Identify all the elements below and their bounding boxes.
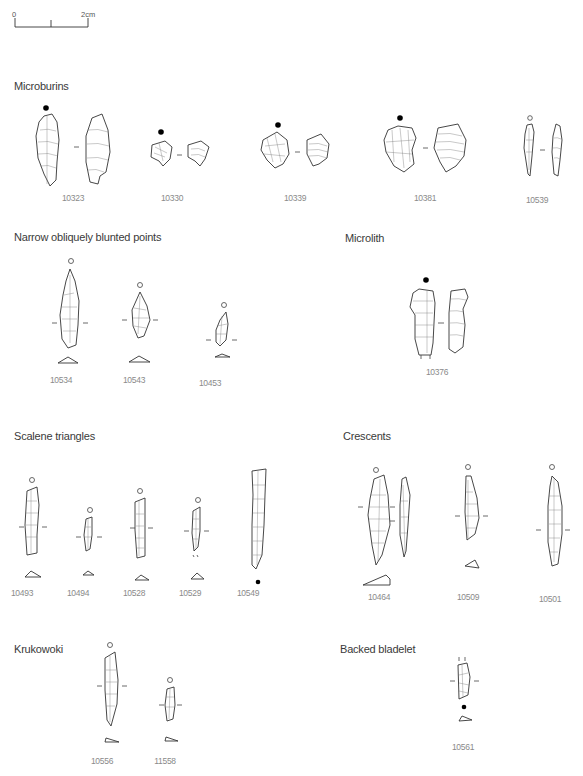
artifact-10549-drawing [238,465,278,590]
artifact-label-10529: 10529 [179,588,201,598]
artifact-label-10556: 10556 [91,756,113,766]
artifact-10339-drawing [255,118,340,183]
artifact-label-10539: 10539 [526,195,548,205]
artifact-10528-drawing [125,486,160,586]
artifact-10493-drawing [15,475,55,585]
artifact-10543-drawing [122,280,162,368]
artifact-label-10323: 10323 [62,193,84,203]
artifact-label-10509: 10509 [457,592,479,602]
section-title-krukowoki: Krukowoki [14,643,63,655]
artifact-label-10494: 10494 [67,588,89,598]
artifact-label-10453: 10453 [199,378,221,388]
artifact-label-10330: 10330 [161,193,183,203]
artifact-label-11558: 11558 [154,756,176,766]
artifact-10330-drawing [145,125,220,180]
artifact-label-10381: 10381 [414,193,436,203]
artifact-10509-drawing [455,462,495,582]
artifact-label-10376: 10376 [426,367,448,377]
artifact-10323-drawing [30,100,130,195]
artifact-label-10561: 10561 [452,742,474,752]
artifact-label-10501: 10501 [539,594,561,604]
artifact-10529-drawing [180,495,215,585]
artifact-label-10543: 10543 [123,375,145,385]
artifact-10534-drawing [50,255,90,370]
section-title-microlith: Microlith [345,232,384,244]
section-title-microburins: Microburins [14,80,69,92]
section-title-scalene: Scalene triangles [14,430,95,442]
artifact-label-10534: 10534 [50,375,72,385]
artifact-10539-drawing [520,112,575,192]
artifact-label-10339: 10339 [284,193,306,203]
artifact-10376-drawing [405,273,485,368]
section-title-crescents: Crescents [343,430,391,442]
artifact-label-10464: 10464 [368,592,390,602]
artifact-label-10549: 10549 [237,588,259,598]
section-title-narrow-points: Narrow obliquely blunted points [14,231,161,243]
artifact-label-10493: 10493 [11,588,33,598]
artifact-10381-drawing [380,112,480,192]
artifact-10561-drawing [450,655,485,730]
section-title-backed-bladelet: Backed bladelet [340,643,415,655]
artifact-10464-drawing [358,465,448,590]
artifact-10494-drawing [72,505,107,585]
artifact-10453-drawing [202,300,242,370]
artifact-10501-drawing [538,462,578,592]
artifact-11558-drawing [155,675,190,750]
scale-bar-line [14,18,94,30]
artifact-label-10528: 10528 [123,588,145,598]
artifact-10556-drawing [95,640,135,750]
